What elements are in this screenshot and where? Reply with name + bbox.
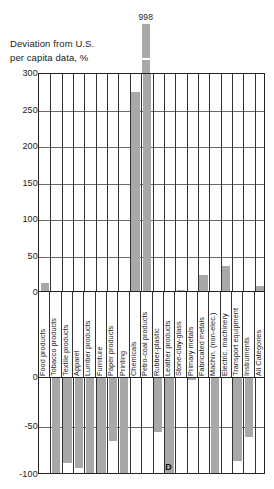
bar-chemicals bbox=[131, 92, 139, 291]
bar-all-categories bbox=[256, 286, 264, 291]
y-tick-label-neg-0: 0 bbox=[4, 372, 38, 382]
overflow-bar-stub-upper bbox=[142, 24, 150, 58]
category-label-textile-products: Textile products bbox=[61, 325, 70, 377]
category-separator bbox=[95, 292, 96, 377]
category-separator bbox=[221, 378, 222, 473]
category-label-food-products: Food products bbox=[38, 329, 47, 376]
category-label-chemicals: Chemicals bbox=[129, 341, 138, 376]
category-separator bbox=[220, 292, 221, 377]
category-separator bbox=[61, 292, 62, 377]
category-separator bbox=[141, 378, 142, 473]
category-separator bbox=[118, 74, 119, 291]
bar-fabricated-metals bbox=[199, 275, 207, 291]
category-separator bbox=[197, 292, 198, 377]
category-label-printing: Printing bbox=[118, 351, 127, 376]
category-separator bbox=[62, 74, 63, 291]
bar-rubber-plastic bbox=[154, 378, 162, 432]
category-separator bbox=[84, 74, 85, 291]
category-separator bbox=[118, 378, 119, 473]
category-separator bbox=[221, 74, 222, 291]
category-separator bbox=[117, 292, 118, 377]
category-separator bbox=[50, 378, 51, 473]
category-separator bbox=[208, 292, 209, 377]
category-separator bbox=[73, 74, 74, 291]
bar-electric-machinery bbox=[222, 266, 230, 291]
category-separator bbox=[198, 74, 199, 291]
bar-apparel bbox=[75, 378, 83, 468]
chart-root: Deviation from U.S. per capita data, % 3… bbox=[0, 0, 274, 489]
y-tick-label-50: 50 bbox=[4, 251, 38, 261]
category-separator bbox=[175, 74, 176, 291]
category-separator bbox=[84, 378, 85, 473]
category-separator bbox=[107, 74, 108, 291]
x-axis-category-labels: Food productsTobacco productsTextile pro… bbox=[38, 292, 265, 377]
plot-panel-negative bbox=[38, 377, 265, 474]
category-label-petro-coal-products: Petro-coal products bbox=[140, 312, 149, 376]
category-separator bbox=[129, 292, 130, 377]
y-tick-label-0: 0 bbox=[4, 287, 38, 297]
bar-leather-products bbox=[165, 378, 173, 473]
d-marker-label: D bbox=[165, 462, 172, 472]
overflow-bar-stub-lower bbox=[142, 60, 150, 74]
category-separator bbox=[243, 74, 244, 291]
bar-primary-metals bbox=[188, 378, 196, 380]
y-axis: 3002502001501005000-50-100 bbox=[0, 0, 38, 489]
category-separator bbox=[231, 292, 232, 377]
category-label-transport-equipment: Transport equipment bbox=[231, 308, 240, 376]
category-separator bbox=[175, 378, 176, 473]
bar-printing bbox=[120, 378, 128, 473]
category-separator bbox=[83, 292, 84, 377]
category-separator bbox=[174, 292, 175, 377]
bar-textile-products bbox=[63, 378, 71, 463]
category-label-stone-clay-glass: Stone-clay-glass bbox=[174, 321, 183, 376]
bar-furniture bbox=[97, 378, 105, 473]
category-label-apparel: Apparel bbox=[72, 350, 81, 376]
category-separator bbox=[140, 292, 141, 377]
y-tick-label-150: 150 bbox=[4, 178, 38, 188]
y-tick-label-100: 100 bbox=[4, 214, 38, 224]
category-separator bbox=[255, 378, 256, 473]
y-tick-label-250: 250 bbox=[4, 105, 38, 115]
bar-petro-coal-products bbox=[143, 74, 151, 291]
bar-stone-clay-glass bbox=[177, 290, 185, 291]
category-separator bbox=[198, 378, 199, 473]
bar-food-products bbox=[41, 283, 49, 291]
category-label-furniture: Furniture bbox=[95, 346, 104, 376]
y-tick-label-neg-100: -100 bbox=[4, 469, 38, 479]
bar-transport-equipment bbox=[233, 378, 241, 461]
overflow-value-label: 998 bbox=[138, 12, 153, 22]
y-tick-label-300: 300 bbox=[4, 68, 38, 78]
category-separator bbox=[255, 74, 256, 291]
category-label-electric-machinery: Electric. machinery bbox=[220, 313, 229, 376]
category-label-tobacco-products: Tobacco products bbox=[49, 318, 58, 376]
bar-machin-non-elec bbox=[211, 378, 219, 473]
category-separator bbox=[187, 378, 188, 473]
category-separator bbox=[187, 74, 188, 291]
category-separator bbox=[96, 74, 97, 291]
category-separator bbox=[163, 292, 164, 377]
category-separator bbox=[106, 292, 107, 377]
category-separator bbox=[209, 74, 210, 291]
category-separator bbox=[152, 292, 153, 377]
category-separator bbox=[232, 74, 233, 291]
category-separator bbox=[242, 292, 243, 377]
category-separator bbox=[153, 74, 154, 291]
y-tick-label-200: 200 bbox=[4, 141, 38, 151]
bar-lumber-products bbox=[86, 378, 94, 473]
category-label-instruments: Instruments bbox=[242, 337, 251, 376]
bar-instruments bbox=[245, 378, 253, 437]
bar-paper-products bbox=[109, 378, 117, 441]
category-separator bbox=[254, 292, 255, 377]
category-separator bbox=[130, 378, 131, 473]
plot-panel-positive bbox=[38, 73, 265, 292]
category-label-paper-products: Paper products bbox=[106, 326, 115, 376]
category-separator bbox=[186, 292, 187, 377]
category-label-lumber-products: Lumber products bbox=[83, 320, 92, 376]
category-label-leather-products: Leather products bbox=[163, 320, 172, 376]
category-label-machin-non-elec: Machin. (non-elec.) bbox=[208, 313, 217, 376]
category-separator bbox=[164, 74, 165, 291]
category-separator bbox=[72, 292, 73, 377]
category-label-all-categories: All Categories bbox=[254, 330, 263, 376]
y-tick-label-neg-50: -50 bbox=[4, 421, 38, 431]
category-label-fabricated-metals: Fabricated metals bbox=[197, 317, 206, 376]
